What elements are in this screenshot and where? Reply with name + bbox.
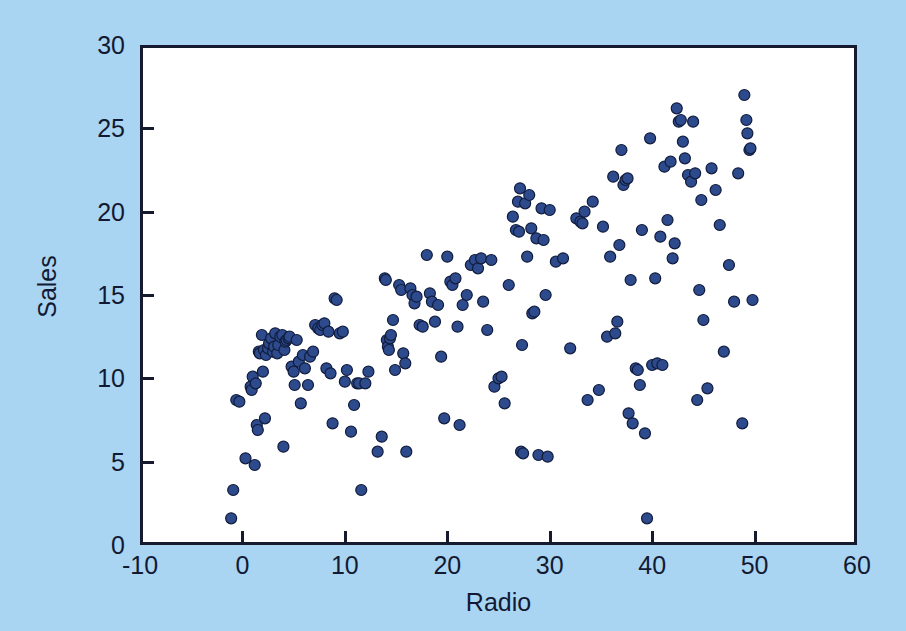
scatter-point <box>518 448 529 459</box>
scatter-point <box>288 366 299 377</box>
scatter-point <box>473 263 484 274</box>
y-tick-label: 10 <box>55 366 125 391</box>
scatter-point <box>482 325 493 336</box>
data-points-layer <box>140 45 857 545</box>
scatter-point <box>349 400 360 411</box>
scatter-point <box>337 326 348 337</box>
scatter-point <box>385 330 396 341</box>
scatter-point <box>639 428 650 439</box>
scatter-point <box>411 291 422 302</box>
y-tick-label: 15 <box>55 283 125 308</box>
x-tick-label: 20 <box>407 553 487 578</box>
scatter-point <box>302 380 313 391</box>
scatter-point <box>436 351 447 362</box>
y-tick-mark <box>143 127 154 130</box>
scatter-point <box>747 295 758 306</box>
x-tick-label: 40 <box>612 553 692 578</box>
scatter-point <box>605 251 616 262</box>
scatter-point <box>745 143 756 154</box>
scatter-point <box>622 173 633 184</box>
scatter-point <box>417 321 428 332</box>
scatter-point <box>524 190 535 201</box>
x-tick-mark <box>651 531 654 542</box>
y-tick-label: 30 <box>55 33 125 58</box>
scatter-point <box>587 196 598 207</box>
scatter-point <box>542 451 553 462</box>
scatter-point <box>457 300 468 311</box>
scatter-point <box>228 485 239 496</box>
scatter-point <box>577 218 588 229</box>
scatter-point <box>612 316 623 327</box>
scatter-point <box>625 275 636 286</box>
y-tick-label: 5 <box>55 450 125 475</box>
y-tick-label: 25 <box>55 116 125 141</box>
scatter-point <box>513 226 524 237</box>
x-tick-mark <box>446 531 449 542</box>
scatter-point <box>729 296 740 307</box>
scatter-point <box>278 441 289 452</box>
scatter-point <box>299 363 310 374</box>
scatter-point <box>517 340 528 351</box>
scatter-point <box>579 206 590 217</box>
scatter-point <box>634 380 645 391</box>
scatter-point <box>582 395 593 406</box>
x-tick-mark <box>344 531 347 542</box>
scatter-point <box>331 295 342 306</box>
x-tick-label: 10 <box>305 553 385 578</box>
scatter-point <box>450 273 461 284</box>
scatter-point <box>363 366 374 377</box>
scatter-point <box>383 345 394 356</box>
scatter-point <box>346 426 357 437</box>
scatter-point <box>669 238 680 249</box>
y-axis-label: Sales <box>33 227 62 347</box>
scatter-point <box>657 360 668 371</box>
x-tick-mark <box>754 531 757 542</box>
scatter-point <box>642 513 653 524</box>
scatter-point <box>323 326 334 337</box>
scatter-point <box>401 446 412 457</box>
scatter-point <box>558 253 569 264</box>
scatter-point <box>388 315 399 326</box>
scatter-point <box>308 346 319 357</box>
scatter-point <box>667 253 678 264</box>
x-tick-label: 30 <box>510 553 590 578</box>
y-tick-label: 20 <box>55 200 125 225</box>
scatter-point <box>698 315 709 326</box>
scatter-point <box>496 371 507 382</box>
scatter-point <box>461 290 472 301</box>
scatter-point <box>665 156 676 167</box>
scatter-plot-figure: 051015202530 -100102030405060 Radio Sale… <box>0 0 906 631</box>
scatter-point <box>442 251 453 262</box>
scatter-point <box>295 398 306 409</box>
scatter-point <box>252 425 263 436</box>
scatter-point <box>650 273 661 284</box>
scatter-point <box>565 343 576 354</box>
y-tick-mark <box>143 211 154 214</box>
scatter-point <box>742 128 753 139</box>
scatter-point <box>739 90 750 101</box>
scatter-point <box>655 231 666 242</box>
scatter-point <box>671 103 682 114</box>
x-tick-label: -10 <box>100 553 180 578</box>
scatter-point <box>234 396 245 407</box>
scatter-point <box>710 185 721 196</box>
scatter-point <box>452 321 463 332</box>
scatter-point <box>632 365 643 376</box>
y-tick-mark <box>143 294 154 297</box>
scatter-point <box>723 260 734 271</box>
scatter-point <box>476 253 487 264</box>
scatter-point <box>507 211 518 222</box>
x-tick-label: 60 <box>817 553 897 578</box>
scatter-point <box>706 163 717 174</box>
scatter-point <box>677 136 688 147</box>
scatter-point <box>627 418 638 429</box>
scatter-point <box>390 365 401 376</box>
scatter-point <box>718 346 729 357</box>
scatter-point <box>616 145 627 156</box>
scatter-point <box>486 255 497 266</box>
scatter-point <box>526 223 537 234</box>
scatter-point <box>733 168 744 179</box>
scatter-point <box>529 306 540 317</box>
scatter-point <box>429 316 440 327</box>
scatter-point <box>737 418 748 429</box>
